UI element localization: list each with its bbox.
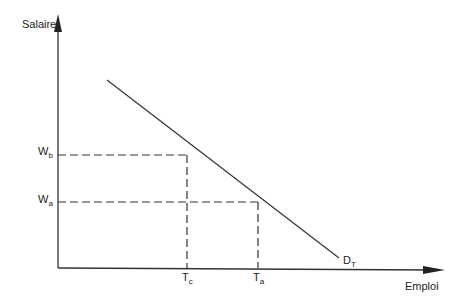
ta-label-sub: a xyxy=(260,277,264,286)
ta-label-main: T xyxy=(253,271,260,283)
tc-label: Tc xyxy=(182,271,193,283)
wb-label-sub: b xyxy=(48,151,52,160)
wa-label-sub: a xyxy=(48,199,52,208)
wa-label-main: W xyxy=(38,193,48,205)
wb-label: Wb xyxy=(38,145,53,157)
x-axis-label: Emploi xyxy=(405,280,439,292)
x-axis-arrow-icon xyxy=(423,266,445,274)
y-axis-label: Salaire xyxy=(22,18,56,30)
demand-curve-dt xyxy=(107,80,339,258)
wa-label: Wa xyxy=(38,193,53,205)
dt-label-main: D xyxy=(343,254,351,266)
dt-label-sub: T xyxy=(351,260,356,269)
x-axis xyxy=(58,268,435,270)
ta-label: Ta xyxy=(253,271,264,283)
dt-curve-label: DT xyxy=(343,254,356,266)
labor-demand-diagram xyxy=(0,0,463,304)
tc-label-main: T xyxy=(182,271,189,283)
tc-label-sub: c xyxy=(189,277,193,286)
wb-label-main: W xyxy=(38,145,48,157)
